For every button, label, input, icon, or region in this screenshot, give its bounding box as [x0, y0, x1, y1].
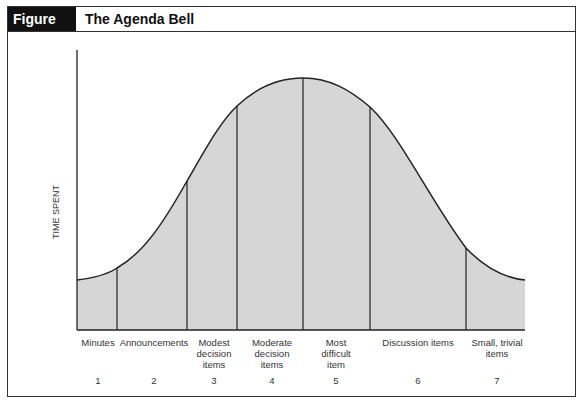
category-label-6: Discussion items [382, 337, 453, 348]
y-axis-label: TIME SPENT [51, 185, 61, 239]
bell-area [77, 78, 525, 330]
category-label-4: Moderate decision items [252, 337, 292, 370]
category-label-5: Most difficult item [321, 337, 350, 370]
order-number-6: 6 [415, 375, 420, 386]
order-number-3: 3 [211, 375, 216, 386]
category-label-3: Modest decision items [197, 337, 232, 370]
category-label-7: Small, trivial items [471, 337, 522, 359]
order-number-1: 1 [95, 375, 100, 386]
order-number-4: 4 [269, 375, 274, 386]
order-number-5: 5 [333, 375, 338, 386]
order-number-2: 2 [151, 375, 156, 386]
order-number-7: 7 [494, 375, 499, 386]
category-label-2: Announcements [120, 337, 189, 348]
category-label-1: Minutes [81, 337, 114, 348]
